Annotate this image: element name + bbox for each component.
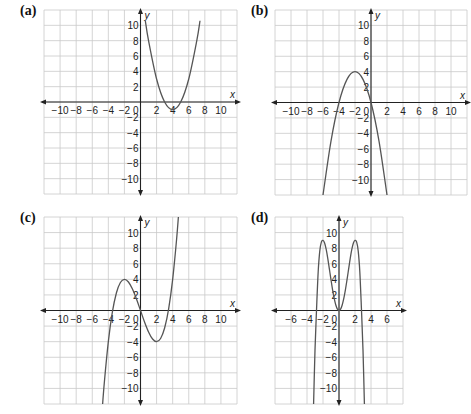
svg-text:6: 6 bbox=[133, 259, 139, 270]
svg-text:−4: −4 bbox=[127, 128, 139, 139]
svg-text:−8: −8 bbox=[70, 105, 82, 116]
x-arrow-right-icon bbox=[401, 308, 407, 313]
svg-text:4: 4 bbox=[400, 106, 406, 117]
svg-text:8: 8 bbox=[331, 243, 337, 254]
svg-text:2: 2 bbox=[384, 106, 390, 117]
svg-text:−10: −10 bbox=[122, 383, 139, 394]
svg-text:8: 8 bbox=[133, 243, 139, 254]
y-axis-label: y bbox=[374, 10, 381, 21]
origin-label: 0 bbox=[133, 314, 139, 325]
svg-text:−10: −10 bbox=[283, 106, 300, 117]
y-arrow-up-icon bbox=[138, 8, 143, 14]
x-axis-label: x bbox=[395, 298, 402, 309]
y-arrow-down-icon bbox=[138, 400, 143, 406]
svg-text:8: 8 bbox=[133, 36, 139, 47]
svg-text:4: 4 bbox=[133, 66, 139, 77]
svg-text:6: 6 bbox=[363, 51, 369, 62]
svg-text:−6: −6 bbox=[317, 106, 329, 117]
svg-text:−4: −4 bbox=[333, 106, 345, 117]
svg-text:8: 8 bbox=[202, 314, 208, 325]
x-arrow-left-icon bbox=[40, 100, 46, 105]
svg-text:10: 10 bbox=[215, 314, 227, 325]
svg-text:−8: −8 bbox=[301, 106, 313, 117]
origin-label: 0 bbox=[133, 105, 139, 116]
svg-text:−4: −4 bbox=[103, 105, 115, 116]
svg-text:4: 4 bbox=[363, 67, 369, 78]
plot-c: xy−10−8−6−4−2246810108642−2−4−6−8−100 bbox=[44, 217, 237, 404]
x-axis-label: x bbox=[229, 298, 236, 309]
svg-text:−10: −10 bbox=[122, 174, 139, 185]
svg-text:−10: −10 bbox=[320, 383, 337, 394]
svg-text:4: 4 bbox=[368, 314, 374, 325]
axes bbox=[40, 8, 241, 196]
svg-text:2: 2 bbox=[154, 105, 160, 116]
plot-a: xy−10−8−6−4−2246810108642−2−4−6−8−100 bbox=[44, 10, 237, 194]
svg-text:−8: −8 bbox=[326, 368, 338, 379]
svg-text:−10: −10 bbox=[352, 175, 369, 186]
svg-text:10: 10 bbox=[445, 106, 457, 117]
panel-label-d: (d) bbox=[251, 210, 268, 226]
svg-text:−4: −4 bbox=[103, 314, 115, 325]
plot-b: xy−10−8−6−4−2246810108642−2−4−6−8−100 bbox=[275, 10, 467, 195]
x-arrow-right-icon bbox=[235, 100, 241, 105]
svg-text:−4: −4 bbox=[358, 128, 370, 139]
svg-text:6: 6 bbox=[331, 259, 337, 270]
svg-text:−10: −10 bbox=[52, 105, 69, 116]
svg-text:−4: −4 bbox=[326, 337, 338, 348]
svg-text:10: 10 bbox=[358, 20, 370, 31]
panel-label-a: (a) bbox=[20, 3, 36, 19]
svg-text:−6: −6 bbox=[87, 314, 99, 325]
x-axis-label: x bbox=[459, 90, 466, 101]
svg-text:−8: −8 bbox=[70, 314, 82, 325]
x-arrow-right-icon bbox=[235, 308, 241, 313]
svg-text:4: 4 bbox=[170, 105, 176, 116]
y-arrow-down-icon bbox=[369, 191, 374, 197]
svg-text:8: 8 bbox=[363, 36, 369, 47]
plot-d: xy−6−4−2246108642−2−4−6−8−100 bbox=[275, 217, 403, 404]
svg-text:−8: −8 bbox=[127, 158, 139, 169]
origin-label: 0 bbox=[363, 106, 369, 117]
x-arrow-left-icon bbox=[40, 308, 46, 313]
y-axis-label: y bbox=[144, 10, 151, 21]
svg-text:−10: −10 bbox=[52, 314, 69, 325]
y-arrow-up-icon bbox=[369, 8, 374, 14]
svg-text:10: 10 bbox=[215, 105, 227, 116]
svg-text:2: 2 bbox=[154, 314, 160, 325]
svg-text:6: 6 bbox=[186, 105, 192, 116]
panel-label-c: (c) bbox=[20, 210, 36, 226]
origin-label: 0 bbox=[331, 314, 337, 325]
svg-text:−6: −6 bbox=[326, 352, 338, 363]
y-axis-label: y bbox=[342, 217, 349, 228]
svg-text:−4: −4 bbox=[127, 337, 139, 348]
svg-text:−4: −4 bbox=[301, 314, 313, 325]
svg-text:−6: −6 bbox=[358, 144, 370, 155]
svg-text:−8: −8 bbox=[127, 368, 139, 379]
svg-text:4: 4 bbox=[331, 274, 337, 285]
svg-text:2: 2 bbox=[352, 314, 358, 325]
svg-text:4: 4 bbox=[133, 274, 139, 285]
y-arrow-up-icon bbox=[138, 215, 143, 221]
svg-text:−6: −6 bbox=[87, 105, 99, 116]
svg-text:10: 10 bbox=[127, 20, 139, 31]
x-axis-label: x bbox=[229, 89, 236, 100]
x-arrow-right-icon bbox=[465, 100, 471, 105]
y-arrow-up-icon bbox=[337, 215, 342, 221]
svg-text:6: 6 bbox=[416, 106, 422, 117]
svg-text:2: 2 bbox=[133, 82, 139, 93]
x-arrow-left-icon bbox=[271, 308, 277, 313]
svg-text:6: 6 bbox=[186, 314, 192, 325]
svg-text:10: 10 bbox=[127, 228, 139, 239]
svg-text:8: 8 bbox=[202, 105, 208, 116]
svg-text:−8: −8 bbox=[358, 159, 370, 170]
panel-label-b: (b) bbox=[251, 3, 268, 19]
svg-text:6: 6 bbox=[133, 51, 139, 62]
svg-text:−6: −6 bbox=[127, 352, 139, 363]
y-arrow-down-icon bbox=[337, 400, 342, 406]
y-axis-label: y bbox=[144, 217, 151, 228]
svg-text:4: 4 bbox=[170, 314, 176, 325]
svg-text:8: 8 bbox=[432, 106, 438, 117]
svg-text:10: 10 bbox=[326, 228, 338, 239]
x-arrow-left-icon bbox=[271, 100, 277, 105]
svg-text:−6: −6 bbox=[285, 314, 297, 325]
svg-text:−6: −6 bbox=[127, 143, 139, 154]
